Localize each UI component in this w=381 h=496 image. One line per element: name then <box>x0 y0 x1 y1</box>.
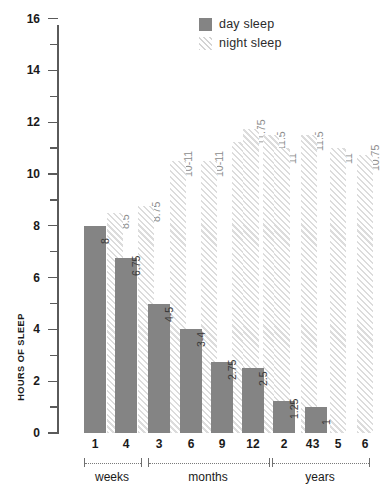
x-axis-label: 12 <box>238 438 268 450</box>
bar-value-label-day: 1.25 <box>289 398 300 418</box>
bar-day-sleep <box>148 304 170 434</box>
x-axis-label: 4 <box>111 438 141 450</box>
bar-value-label-day: 2.75 <box>227 359 238 379</box>
x-axis-label: 1 <box>80 438 110 450</box>
x-axis-group-bracket <box>272 458 370 467</box>
bar-night-sleep <box>357 155 373 433</box>
bar-night-sleep <box>301 135 317 433</box>
bar-night-sleep <box>330 148 346 433</box>
bar-value-label-day: 4-5 <box>164 306 175 321</box>
bar-value-label-day: 6.75 <box>131 256 142 276</box>
x-axis-label: 4 <box>294 438 324 450</box>
bar-value-label-day: 1 <box>321 419 332 425</box>
x-axis-group-bracket <box>84 458 142 467</box>
x-axis-label: 6 <box>176 438 206 450</box>
bar-day-sleep <box>115 258 137 433</box>
x-axis-group-label: years <box>272 471 368 483</box>
x-axis-group-label: months <box>148 471 268 483</box>
bar-value-label-day: 8 <box>100 238 111 244</box>
x-axis-label: 6 <box>350 438 380 450</box>
x-axis-group-bracket <box>148 458 270 467</box>
bar-day-sleep <box>84 226 106 433</box>
bar-value-label-day: 2.5 <box>258 372 269 387</box>
x-axis-label: 5 <box>323 438 353 450</box>
x-axis-label: 3 <box>144 438 174 450</box>
x-axis-group-label: weeks <box>84 471 140 483</box>
bar-value-label-day: 3-4 <box>196 332 207 347</box>
x-axis-label: 9 <box>207 438 237 450</box>
bar-night-sleep <box>274 148 290 433</box>
